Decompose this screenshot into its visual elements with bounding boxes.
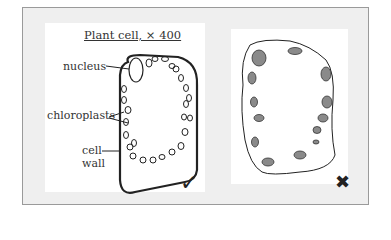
- cross-mark-icon: ✖: [335, 171, 350, 192]
- check-mark-icon: ✓: [180, 170, 198, 195]
- nucleus-shape: [129, 58, 143, 82]
- incorrect-cell-drawing: [242, 40, 335, 174]
